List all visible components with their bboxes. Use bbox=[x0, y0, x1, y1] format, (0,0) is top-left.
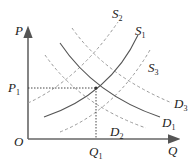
d1-label: D1 bbox=[161, 115, 175, 132]
d3-label: D3 bbox=[173, 96, 187, 113]
x-axis-label: Q bbox=[168, 143, 178, 158]
demand-curve-d1 bbox=[60, 43, 160, 117]
supply-curve-s2 bbox=[28, 22, 118, 103]
s1-label: S1 bbox=[135, 23, 146, 40]
price-p1-label: P1 bbox=[7, 80, 20, 97]
d2-label: D2 bbox=[109, 124, 123, 141]
equilibrium-point bbox=[94, 86, 97, 89]
y-axis-label: P bbox=[14, 23, 23, 38]
demand-curve-d2 bbox=[45, 55, 146, 128]
origin-label: O bbox=[14, 134, 24, 149]
s2-label: S2 bbox=[112, 6, 123, 23]
s3-label: S3 bbox=[148, 60, 159, 77]
supply-curve-s3 bbox=[60, 50, 150, 132]
supply-curve-s1 bbox=[44, 35, 138, 117]
quantity-q1-label: Q1 bbox=[89, 144, 102, 161]
supply-demand-diagram: P O Q P1 Q1 S1 D1 S2 S3 D2 D3 bbox=[0, 0, 194, 167]
demand-curve-d3 bbox=[72, 28, 172, 103]
